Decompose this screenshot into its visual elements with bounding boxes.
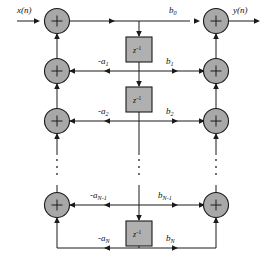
rowN1-aN1-arrow [104,202,110,208]
coefficient-b0-label: b0 [169,5,178,16]
adder-left-row0 [45,9,70,34]
iir-filter-diagram: x(n) y(n) b0 b1 b2 bN-1 bN -a1 -a2 -aN-1… [0,0,269,265]
row-n-minus-1-wires [69,202,205,208]
input-signal-label: x(n) [16,5,32,15]
coefficient-b1-label: b1 [166,56,174,67]
signal-flow-graph: x(n) y(n) b0 b1 b2 bN-1 bN -a1 -a2 -aN-1… [0,0,269,265]
coefficient-a1-label: -a1 [98,56,109,67]
adder-right-row-n-minus-1 [204,193,229,218]
row2-a2-arrow [104,118,110,124]
coefficient-a2-label: -a2 [98,106,109,117]
row2-b2-arrow [172,118,178,124]
adder-left-row-n-minus-1 [45,193,70,218]
row1-a1-arrow [104,68,110,74]
coefficient-bN-label: bN [166,233,176,244]
row-1-wires [69,68,205,74]
output-signal-label: y(n) [232,5,248,15]
input-arrow [34,18,40,24]
left-column-ellipsis [56,159,58,175]
center-arrow-into-delay2 [136,81,142,87]
coefficient-aN-label: -aN [98,233,111,244]
output-arrow [254,18,260,24]
coefficient-b2-label: b2 [166,106,174,117]
row-2-wires [69,118,205,124]
center-arrow-into-delay1 [136,31,142,37]
row1-b1-arrow [172,68,178,74]
coefficient-bN-minus-1-label: bN-1 [158,190,172,201]
rowN-aN-arrow [104,245,110,251]
rowN-bN-arrow [172,245,178,251]
adder-left-row2 [45,109,70,134]
center-column-ellipsis [138,159,140,175]
center-arrow-into-delayN [136,215,142,221]
right-column-ellipsis [215,159,217,175]
row0-into-adder-arrow [194,18,200,24]
adder-right-row0 [204,9,229,34]
adder-right-row1 [204,59,229,84]
coefficient-aN-minus-1-label: -aN-1 [90,190,107,201]
adder-left-row1 [45,59,70,84]
row0-b0-arrow [109,18,115,24]
rowN1-bN1-arrow [172,202,178,208]
adder-right-row2 [204,109,229,134]
